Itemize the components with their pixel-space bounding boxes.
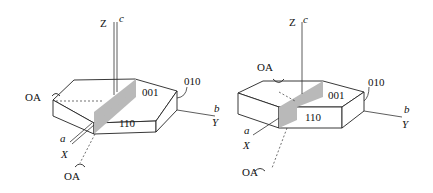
- left-y-label: Y: [212, 116, 220, 128]
- left-110-label: 110: [119, 117, 136, 129]
- right-c-label: c: [303, 13, 308, 25]
- left-a-label: a: [60, 132, 66, 144]
- left-x-label: X: [60, 148, 69, 160]
- right-110-label: 110: [305, 111, 322, 123]
- left-010-leader: [177, 87, 187, 98]
- left-z-label: Z: [100, 17, 107, 29]
- left-panel: Z c 001 110 010 OA OA a X: [25, 12, 215, 182]
- right-001-label: 001: [328, 89, 345, 101]
- left-optic-axis-line: [80, 134, 95, 163]
- right-010-leader: [364, 87, 369, 101]
- right-a-label: a: [244, 124, 250, 136]
- left-oa-label-1: OA: [25, 91, 41, 103]
- right-x-label: X: [242, 139, 251, 151]
- right-z-label: Z: [289, 16, 296, 28]
- right-optic-axis-lower: [272, 128, 287, 168]
- left-001-label: 001: [142, 86, 159, 98]
- right-panel: Z c 001 110 010 OA OA a X b Y: [238, 13, 410, 178]
- left-c-label: c: [119, 12, 124, 24]
- left-010-label: 010: [184, 75, 201, 87]
- right-oa-label-2: OA: [242, 166, 258, 178]
- right-b-axis: [364, 111, 402, 117]
- right-010-label: 010: [368, 76, 385, 88]
- right-y-label: Y: [402, 118, 410, 130]
- left-b-label: b: [214, 102, 220, 114]
- crystal-orientation-diagram: Z c 001 110 010 OA OA a X Z c 001 110 01…: [0, 0, 433, 193]
- left-b-axis: [177, 110, 215, 116]
- right-oa-label-1: OA: [257, 61, 273, 73]
- right-hexagonal-prism: [238, 81, 364, 128]
- left-oa-label-2: OA: [64, 170, 80, 182]
- right-b-label: b: [404, 103, 410, 115]
- left-rotation-arrow-icon-2: [75, 164, 85, 167]
